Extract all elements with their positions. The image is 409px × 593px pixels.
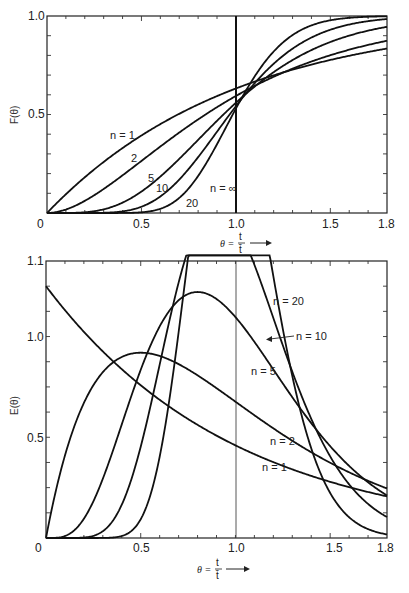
arrow-left-icon <box>266 336 272 342</box>
label-n-infinity: n = ∞ <box>210 182 237 194</box>
label-n5: 5 <box>148 172 154 184</box>
svg-text:t̄: t̄ <box>238 244 242 255</box>
x-tick-0.5: 0.5 <box>133 541 150 555</box>
curve-n-20 <box>46 255 387 538</box>
y-tick-1.0: 1.0 <box>28 9 45 23</box>
y-tick-0.5: 0.5 <box>27 431 44 445</box>
x-tick-1.0: 1.0 <box>228 541 245 555</box>
x-axis-title: θ = t t̄ <box>197 557 250 581</box>
label-n1: n = 1 <box>110 129 135 141</box>
curve-n-10 <box>46 255 387 538</box>
svg-text:t̄: t̄ <box>215 570 219 581</box>
x-tick-1.8: 1.8 <box>377 541 394 555</box>
label-n2: 2 <box>131 152 137 164</box>
label-n10: 10 <box>156 182 168 194</box>
x-tick-1.5: 1.5 <box>322 217 339 231</box>
x-tick-0.5: 0.5 <box>133 217 150 231</box>
label-n20: n = 20 <box>273 295 304 307</box>
svg-text:θ =: θ = <box>220 238 234 249</box>
y-axis-title: E(θ) <box>9 396 20 415</box>
y-tick-1.1: 1.1 <box>27 254 44 268</box>
arrow-right-icon <box>244 566 250 572</box>
label-n10: n = 10 <box>296 330 327 342</box>
n10-pointer-line <box>270 336 294 339</box>
svg-text:θ =: θ = <box>197 564 211 575</box>
x-tick-0: 0 <box>37 217 44 231</box>
label-n5: n = 5 <box>251 365 276 377</box>
x-tick-1.0: 1.0 <box>228 217 245 231</box>
plot-frame <box>46 261 387 538</box>
label-n1: n = 1 <box>262 461 287 473</box>
svg-text:t: t <box>239 231 242 242</box>
label-n2: n = 2 <box>270 435 295 447</box>
residence-time-distribution-chart: 1.1 1.0 0.5 0 0.5 1.0 1.5 1.8 E(θ) θ = t… <box>9 254 394 581</box>
y-tick-1.0: 1.0 <box>27 330 44 344</box>
y-axis-title: F(θ) <box>9 106 20 124</box>
figure: 1.0 0.5 0 0.5 1.0 1.5 1.8 F(θ) θ = t t̄ … <box>0 0 409 593</box>
label-n20: 20 <box>186 197 198 209</box>
svg-text:t: t <box>216 557 219 568</box>
x-tick-1.8: 1.8 <box>378 217 395 231</box>
cumulative-distribution-chart: 1.0 0.5 0 0.5 1.0 1.5 1.8 F(θ) θ = t t̄ … <box>9 9 395 255</box>
y-tick-0.5: 0.5 <box>28 107 45 121</box>
curve-n-2 <box>46 353 387 538</box>
arrow-right-icon <box>266 240 272 246</box>
x-tick-0: 0 <box>35 541 42 555</box>
x-tick-1.5: 1.5 <box>326 541 343 555</box>
axis-ticks <box>46 261 387 538</box>
curves <box>46 255 387 538</box>
x-axis-title: θ = t t̄ <box>220 231 272 255</box>
